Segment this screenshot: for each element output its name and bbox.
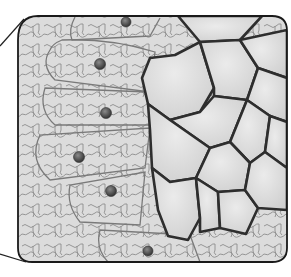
nucleus-6 (143, 246, 153, 256)
nucleus-5 (106, 186, 117, 197)
nucleus-4 (74, 152, 85, 163)
inset-content (0, 0, 291, 277)
nucleus-3 (101, 108, 112, 119)
nucleus-2 (95, 59, 106, 70)
nucleus-1 (121, 17, 131, 27)
epidermis-illustration (0, 0, 291, 277)
